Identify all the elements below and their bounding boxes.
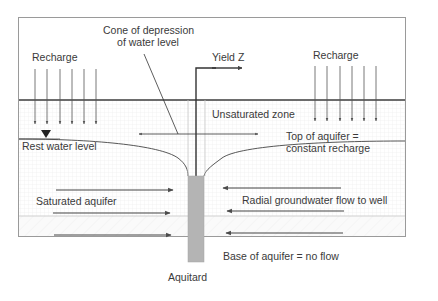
top-of-aquifer-line-2: constant recharge <box>286 142 370 154</box>
top-of-aquifer-label: Top of aquifer = constant recharge <box>286 130 370 154</box>
radial-flow-label: Radial groundwater flow to well <box>242 194 387 206</box>
unsaturated-zone-label: Unsaturated zone <box>212 108 295 120</box>
cone-label-line-2: of water level <box>103 36 193 48</box>
well-screen <box>188 176 204 262</box>
cone-label-line-1: Cone of depression <box>103 24 193 36</box>
yield-label: Yield Z <box>212 51 244 63</box>
top-of-aquifer-line-1: Top of aquifer = <box>286 130 370 142</box>
cone-of-depression-label: Cone of depression of water level <box>103 24 193 48</box>
base-of-aquifer-label: Base of aquifer = no flow <box>223 250 339 262</box>
recharge-left-label: Recharge <box>32 51 78 63</box>
recharge-right-label: Recharge <box>313 49 359 61</box>
aquitard-label: Aquitard <box>168 271 207 283</box>
saturated-aquifer-label: Saturated aquifer <box>36 195 117 207</box>
rest-water-level-label: Rest water level <box>22 140 97 152</box>
